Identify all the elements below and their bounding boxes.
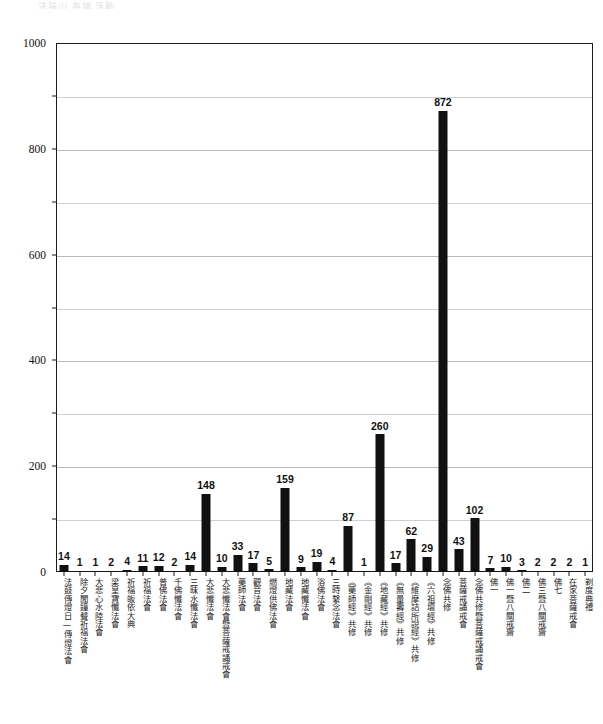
- x-tick-mark: [285, 572, 286, 576]
- bar-slot: 14: [182, 43, 198, 572]
- bar: [281, 488, 290, 572]
- bar: [375, 434, 384, 572]
- y-tick-label: 1000: [23, 37, 46, 49]
- bar: [438, 111, 447, 572]
- bar-value-label: 14: [184, 551, 196, 562]
- x-axis-label: 觀音法會: [246, 578, 260, 612]
- bar-chart: 法鼓山 各項 活動 02004006008001000 141124111221…: [0, 0, 603, 724]
- bar-slot: 1: [577, 43, 593, 572]
- x-axis-label: 《藥師經》共修: [341, 578, 355, 637]
- x-axis-label: 法鼓傳燈日—傳燈法會: [57, 578, 71, 664]
- x-axis-label: 地藏法會: [278, 578, 292, 612]
- x-axis-label: 祈福皈依大典: [120, 578, 134, 628]
- x-tick-mark: [269, 572, 270, 576]
- bar-value-label: 872: [434, 97, 452, 108]
- bar: [59, 565, 68, 572]
- bar-slot: 14: [56, 43, 72, 572]
- x-tick-mark: [174, 572, 175, 576]
- bar-slot: 9: [293, 43, 309, 572]
- bar-slot: 4: [325, 43, 341, 572]
- bar-value-label: 4: [124, 556, 130, 567]
- x-tick-mark: [427, 572, 428, 576]
- x-axis-label: 祈福法會: [136, 578, 150, 612]
- bar-slot: 2: [546, 43, 562, 572]
- x-tick-mark: [395, 572, 396, 576]
- bar: [391, 563, 400, 572]
- bar: [312, 562, 321, 572]
- bar-value-label: 29: [421, 543, 433, 554]
- bar-value-label: 148: [197, 480, 215, 491]
- bar: [423, 557, 432, 572]
- x-tick-mark: [411, 572, 412, 576]
- bar-value-label: 11: [137, 553, 148, 564]
- x-axis-label: 菩薩戒誦戒會: [452, 578, 466, 628]
- x-tick-mark: [569, 572, 570, 576]
- bar-value-label: 62: [406, 526, 418, 537]
- y-tick-label: 600: [29, 249, 46, 261]
- x-axis-label: 佛三暨八關戒齋: [531, 578, 545, 637]
- bar-value-label: 102: [466, 505, 484, 516]
- y-tick-label: 800: [29, 143, 46, 155]
- bar-slot: 10: [498, 43, 514, 572]
- bar-slot: 148: [198, 43, 214, 572]
- x-tick-mark: [79, 572, 80, 576]
- bar: [233, 555, 242, 572]
- bar: [407, 539, 416, 572]
- x-axis-labels: 法鼓傳燈日—傳燈法會除夕聞鐘聲祈福法會大悲心水陸法會梁皇寶懺法會祈福皈依大典祈福…: [56, 578, 593, 718]
- x-tick-mark: [458, 572, 459, 576]
- x-axis-label: 佛一: [483, 578, 497, 595]
- x-axis-label: 念佛共修暨菩薩戒誦戒會: [468, 578, 482, 670]
- bar-value-label: 19: [311, 548, 323, 559]
- x-tick-mark: [585, 572, 586, 576]
- x-axis-label: 浴佛法會: [310, 578, 324, 612]
- bar-value-label: 5: [266, 556, 272, 567]
- bar-slot: 5: [261, 43, 277, 572]
- y-tick-label: 0: [40, 566, 46, 578]
- bar: [249, 563, 258, 572]
- bar-slot: 62: [403, 43, 419, 572]
- x-tick-mark: [537, 572, 538, 576]
- bar: [470, 518, 479, 572]
- x-axis-label: 普佛法會: [152, 578, 166, 612]
- bar-slot: 87: [340, 43, 356, 572]
- x-axis-label: 除夕聞鐘聲祈福法會: [73, 578, 87, 654]
- bar-value-label: 4: [329, 556, 335, 567]
- x-tick-mark: [506, 572, 507, 576]
- bar-value-label: 2: [551, 557, 557, 568]
- bar-slot: 1: [72, 43, 88, 572]
- bar-value-label: 9: [298, 554, 304, 565]
- bar-slot: 10: [214, 43, 230, 572]
- bar: [454, 549, 463, 572]
- bar-value-label: 12: [153, 552, 165, 563]
- bar-slot: 872: [435, 43, 451, 572]
- x-axis-label: 大悲懺法會暨菩薩戒誦戒會: [215, 578, 229, 679]
- bar-value-label: 2: [172, 557, 178, 568]
- y-tick-label: 200: [29, 460, 46, 472]
- x-tick-mark: [332, 572, 333, 576]
- bar-value-label: 1: [361, 557, 367, 568]
- x-axis-label: 藥師法會: [231, 578, 245, 612]
- bar-slot: 43: [451, 43, 467, 572]
- x-axis-label: 《地藏經》共修: [373, 578, 387, 637]
- x-axis-label: 剃度典禮: [578, 578, 592, 612]
- x-axis-label: 千佛懺法會: [167, 578, 181, 620]
- bar-slot: 2: [530, 43, 546, 572]
- x-tick-mark: [553, 572, 554, 576]
- x-axis-label: 燃燈供佛法會: [262, 578, 276, 628]
- x-tick-mark: [300, 572, 301, 576]
- x-axis-label: 三時繫念法會: [325, 578, 339, 628]
- bar-value-label: 14: [58, 551, 70, 562]
- bar-slot: 29: [419, 43, 435, 572]
- bar-slot: 1: [88, 43, 104, 572]
- x-axis-label: 《六祖壇經》共修: [420, 578, 434, 645]
- bar-value-label: 33: [232, 541, 244, 552]
- bar-slot: 1: [356, 43, 372, 572]
- x-axis-label: 佛二: [515, 578, 529, 595]
- x-tick-mark: [190, 572, 191, 576]
- x-axis-label: 地藏懺法會: [294, 578, 308, 620]
- bar-value-label: 159: [276, 474, 294, 485]
- x-tick-mark: [95, 572, 96, 576]
- x-tick-mark: [490, 572, 491, 576]
- bar-value-label: 1: [93, 557, 99, 568]
- x-axis-label: 《金剛經》共修: [357, 578, 371, 637]
